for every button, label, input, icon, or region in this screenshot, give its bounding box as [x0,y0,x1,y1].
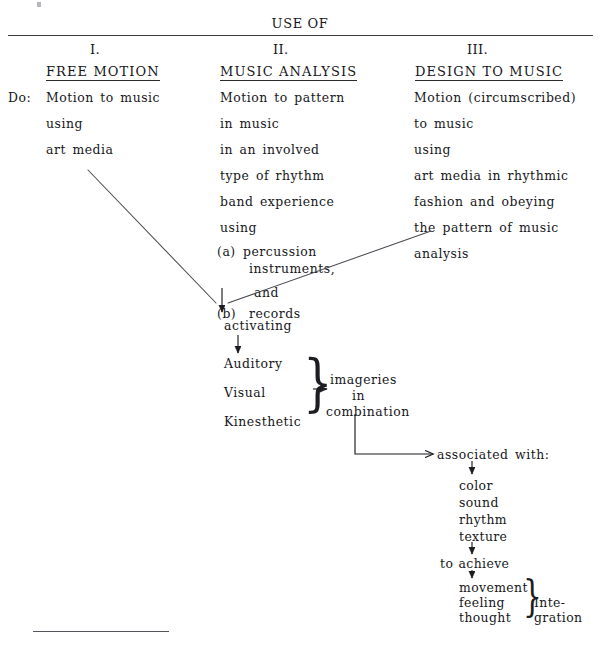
column-2-line-3: in an involved [220,142,320,157]
header-rule [8,35,593,36]
column-3-line-4: art media in rhythmic [414,168,568,183]
flow-quality-color: color [459,478,493,493]
wire-column1-to-activating [88,170,216,303]
column-2-item-a-text: percussion [243,244,317,259]
column-1-numeral: I. [90,42,100,57]
column-3-line-2: to music [414,116,474,131]
column-2-title: MUSIC ANALYSIS [220,64,357,81]
column-1-line-1: Motion to music [46,90,160,105]
flow-activating: activating [224,318,292,333]
flow-imageries-line-1: imageries [330,372,397,387]
flow-modality-kinesthetic: Kinesthetic [224,414,301,429]
flow-outcome-movement: movement [459,580,528,595]
flow-modality-visual: Visual [224,385,266,400]
column-2-item-a-marker: (a) [217,244,236,259]
column-2-numeral: II. [273,42,289,57]
column-3-line-6: the pattern of music [414,220,559,235]
column-2-line-4: type of rhythm [220,168,324,183]
column-3-line-1: Motion (circumscribed) [414,90,576,105]
column-2-line-6: using [220,220,257,235]
document-page: USE OF I. FREE MOTION II. MUSIC ANALYSIS… [0,0,600,645]
footnote-rule [33,631,169,632]
flow-outcome-feeling: feeling [459,595,505,610]
flow-outcome-thought: thought [459,610,511,625]
wire-imageries-to-associated [355,414,433,454]
flow-quality-rhythm: rhythm [459,512,507,527]
column-2-line-2: in music [220,116,279,131]
flow-to-achieve: to achieve [440,556,509,571]
column-2-line-5: band experience [220,194,334,209]
do-label: Do: [8,90,31,105]
column-3-line-3: using [414,142,451,157]
column-2-conjunction-and: and [254,285,279,300]
column-3-title: DESIGN TO MUSIC [415,64,563,81]
page-artifact-speck [37,2,41,7]
column-2-item-a-continuation: instruments, [249,261,335,276]
column-1-title: FREE MOTION [46,64,160,81]
flow-modality-auditory: Auditory [224,356,283,371]
flow-associated-with: associated with: [437,447,550,462]
column-3-line-5: fashion and obeying [414,194,555,209]
column-2-line-1: Motion to pattern [220,90,345,105]
column-3-line-7: analysis [414,246,469,261]
flow-imageries-line-3: combination [326,404,410,419]
column-1-line-2: using [46,116,83,131]
flow-integration-line-2: gration [534,610,582,625]
flow-integration-line-1: Inte- [534,595,565,610]
flow-quality-texture: texture [459,529,507,544]
column-1-line-3: art media [46,142,114,157]
flow-imageries-line-2: in [352,388,365,403]
column-3-numeral: III. [467,42,488,57]
page-title: USE OF [0,16,600,31]
flow-quality-sound: sound [459,495,499,510]
